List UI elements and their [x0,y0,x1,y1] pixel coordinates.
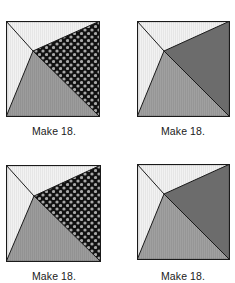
block-label-bottom-right: Make 18. [128,270,235,282]
block-unit-solid-top-right [137,21,230,117]
block-unit-print-bottom-left [6,165,101,262]
block-unit-print-top-left [6,21,100,117]
block-label-bottom-left: Make 18. [0,270,109,282]
block-label-top-left: Make 18. [0,125,109,137]
pieced-square-solid-icon [137,164,230,260]
block-unit-solid-bottom-right [137,164,230,260]
block-label-top-right: Make 18. [128,125,235,137]
pieced-square-print-icon [6,21,100,117]
pieced-square-solid-icon [137,21,230,117]
pieced-square-print-icon [6,165,101,262]
